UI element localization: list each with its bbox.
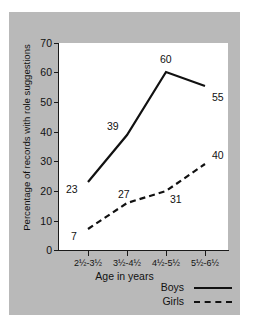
y-tick-label-30: 30: [30, 156, 52, 166]
y-tick-label-70: 70: [30, 38, 52, 48]
y-tick-60: [54, 72, 59, 73]
chart-legend: Boys Girls: [114, 281, 234, 309]
data-label-boys-0: 23: [66, 184, 78, 195]
data-label-boys-2: 60: [160, 54, 172, 65]
data-label-boys-3: 55: [212, 92, 224, 103]
y-tick-label-60: 60: [30, 67, 52, 77]
data-label-boys-1: 39: [107, 121, 119, 132]
legend-label-girls: Girls: [114, 295, 184, 308]
y-tick-50: [54, 102, 59, 103]
chart-figure: 70 60 50 40 30 20 10 0 2½-3½ 3½-4½ 4½-5½…: [9, 12, 240, 315]
y-axis-title: Percentage of records with role suggesti…: [21, 38, 32, 238]
data-label-girls-3: 40: [212, 150, 224, 161]
x-tick-3: [205, 251, 206, 256]
legend-entry-boys: Boys: [114, 281, 234, 295]
x-axis-line: [58, 250, 229, 251]
legend-swatch-solid-line-icon: [194, 287, 232, 289]
y-tick-label-40: 40: [30, 127, 52, 137]
plot-area: [58, 43, 228, 250]
data-label-girls-1: 27: [118, 189, 130, 200]
y-tick-70: [54, 43, 59, 44]
data-label-girls-2: 31: [170, 194, 182, 205]
y-tick-label-10: 10: [30, 216, 52, 226]
y-axis-line: [58, 43, 59, 251]
y-tick-30: [54, 161, 59, 162]
y-tick-label-50: 50: [30, 97, 52, 107]
y-tick-40: [54, 132, 59, 133]
y-tick-label-20: 20: [30, 186, 52, 196]
data-label-girls-0: 7: [71, 231, 77, 242]
x-tick-label-3: 5½-6½: [177, 258, 233, 268]
legend-swatch-dashed-line-icon: [194, 301, 232, 303]
y-tick-0: [54, 250, 59, 251]
legend-entry-girls: Girls: [114, 295, 234, 309]
x-tick-0: [88, 251, 89, 256]
x-tick-1: [127, 251, 128, 256]
legend-label-boys: Boys: [114, 281, 184, 294]
x-tick-2: [166, 251, 167, 256]
y-tick-20: [54, 191, 59, 192]
y-tick-10: [54, 221, 59, 222]
y-tick-label-0: 0: [30, 245, 52, 255]
